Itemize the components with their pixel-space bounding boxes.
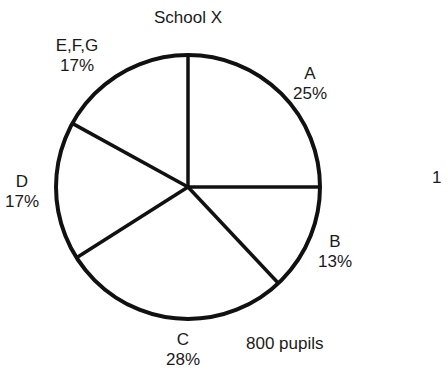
cropped-edge-text: 1 [432, 168, 446, 188]
total-pupils-label: 800 pupils [246, 334, 356, 354]
slice-label-c: C 28% [158, 330, 208, 370]
slice-value-b: 13% [310, 252, 360, 272]
slice-value-a: 25% [285, 84, 335, 104]
slice-value-c: 28% [158, 350, 208, 370]
slice-name-b: B [310, 232, 360, 252]
slice-value-d: 17% [0, 192, 44, 212]
slice-label-efg: E,F,G 17% [42, 36, 112, 76]
slice-name-efg: E,F,G [42, 36, 112, 56]
slice-name-c: C [158, 330, 208, 350]
slice-label-b: B 13% [310, 232, 360, 272]
slice-name-a: A [285, 64, 335, 84]
slice-label-a: A 25% [285, 64, 335, 104]
slice-value-efg: 17% [42, 56, 112, 76]
slice-label-d: D 17% [0, 172, 44, 212]
slice-name-d: D [0, 172, 44, 192]
chart-title: School X [128, 8, 248, 28]
